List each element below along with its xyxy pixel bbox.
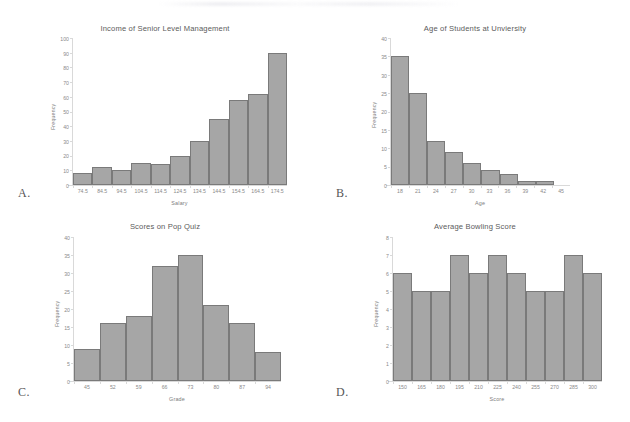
x-tick-label: 150 <box>393 382 412 390</box>
y-tick-mark <box>388 185 390 186</box>
x-tick-label: 134.5 <box>190 186 209 194</box>
y-tick-mark <box>390 237 392 238</box>
y-tick-mark <box>71 327 73 328</box>
plot-area-d: 150165180195210225240255270285300 012345… <box>392 237 602 382</box>
x-tick-label: 210 <box>469 382 488 390</box>
y-tick-mark <box>70 38 72 39</box>
x-tick-label: 164.5 <box>248 186 267 194</box>
bar <box>564 255 583 381</box>
chart-panel-b: Age of Students at Unviersity 1821242730… <box>330 10 630 210</box>
x-axis-label-b: Age <box>390 200 570 206</box>
bar <box>545 291 564 381</box>
x-tick-label: 285 <box>564 382 583 390</box>
x-tick-label: 33 <box>481 186 499 194</box>
x-tick-label: 84.5 <box>92 186 111 194</box>
x-tick-label: 66 <box>152 382 178 390</box>
chart-title-c: Scores on Pop Quiz <box>0 222 330 231</box>
x-tick-label: 114.5 <box>151 186 170 194</box>
bar-series-b <box>391 38 570 185</box>
bar <box>393 273 412 381</box>
chart-panel-c: Scores on Pop Quiz 4552596673808794 0510… <box>0 212 330 412</box>
x-tick-label: 18 <box>391 186 409 194</box>
y-tick-mark <box>71 363 73 364</box>
x-tick-label: 52 <box>100 382 126 390</box>
chart-panel-d: Average Bowling Score 150165180195210225… <box>330 212 630 412</box>
bar <box>481 170 499 185</box>
x-tick-label: 45 <box>74 382 100 390</box>
x-tick-label: 87 <box>229 382 255 390</box>
bar <box>152 266 178 381</box>
y-tick-mark <box>70 67 72 68</box>
bar-series-c <box>74 237 281 381</box>
chart-title-d: Average Bowling Score <box>340 222 610 231</box>
y-tick-mark <box>390 345 392 346</box>
plot-area-b: 18212427303336394245 0510152025303540 <box>390 38 570 186</box>
y-tick-mark <box>388 38 390 39</box>
bar <box>409 93 427 185</box>
x-axis-label-c: Grade <box>73 396 281 402</box>
panel-letter-d: D. <box>336 385 349 400</box>
bar <box>450 255 469 381</box>
y-tick-mark <box>388 130 390 131</box>
x-tick-label: 154.5 <box>229 186 248 194</box>
bar <box>126 316 152 381</box>
x-tick-label: 255 <box>526 382 545 390</box>
x-tick-label: 59 <box>126 382 152 390</box>
x-tick-label: 300 <box>583 382 602 390</box>
x-tick-label: 27 <box>445 186 463 194</box>
x-tick-label: 225 <box>488 382 507 390</box>
x-tick-label: 42 <box>534 186 552 194</box>
x-tick-label: 24 <box>427 186 445 194</box>
bar <box>518 181 536 185</box>
y-tick-mark <box>70 185 72 186</box>
y-tick-mark <box>71 291 73 292</box>
y-tick-mark <box>390 363 392 364</box>
bar <box>229 323 255 381</box>
bar <box>507 273 526 381</box>
y-tick-mark <box>388 148 390 149</box>
y-axis-label-b: Frequency <box>371 102 377 128</box>
bar <box>500 174 518 185</box>
worksheet-page: Income of Senior Level Management 74.584… <box>0 0 630 422</box>
bar <box>427 141 445 185</box>
y-tick-mark <box>388 75 390 76</box>
y-tick-mark <box>70 141 72 142</box>
x-tick-label: 195 <box>450 382 469 390</box>
bar <box>469 273 488 381</box>
bar-series-a <box>73 38 287 185</box>
plot-area-a: 74.584.594.5104.5114.5124.5134.5144.5154… <box>72 38 287 186</box>
bar <box>112 170 131 185</box>
y-tick-mark <box>390 327 392 328</box>
y-tick-mark <box>388 56 390 57</box>
y-tick-mark <box>390 255 392 256</box>
bar <box>131 163 150 185</box>
panel-letter-a: A. <box>18 186 31 201</box>
bar <box>583 273 602 381</box>
bar <box>248 94 267 185</box>
y-tick-mark <box>70 156 72 157</box>
y-tick-mark <box>390 273 392 274</box>
y-tick-mark <box>71 273 73 274</box>
y-tick-mark <box>390 291 392 292</box>
bar <box>74 349 100 381</box>
x-tick-label: 144.5 <box>209 186 228 194</box>
panel-letter-b: B. <box>336 186 348 201</box>
bar <box>209 119 228 185</box>
x-tick-label: 240 <box>507 382 526 390</box>
y-tick-mark <box>70 126 72 127</box>
bar <box>151 164 170 185</box>
bar-series-d <box>393 237 602 381</box>
x-tick-label: 45 <box>552 186 570 194</box>
y-tick-mark <box>70 53 72 54</box>
y-tick-mark <box>390 381 392 382</box>
x-axis-label-d: Score <box>392 396 602 402</box>
x-tick-label: 270 <box>545 382 564 390</box>
x-tick-label: 36 <box>498 186 516 194</box>
bar <box>100 323 126 381</box>
panel-letter-c: C. <box>18 385 30 400</box>
y-tick-mark <box>71 345 73 346</box>
y-tick-mark <box>388 93 390 94</box>
bar <box>268 53 287 185</box>
bar <box>178 255 204 381</box>
x-tick-label: 165 <box>412 382 431 390</box>
